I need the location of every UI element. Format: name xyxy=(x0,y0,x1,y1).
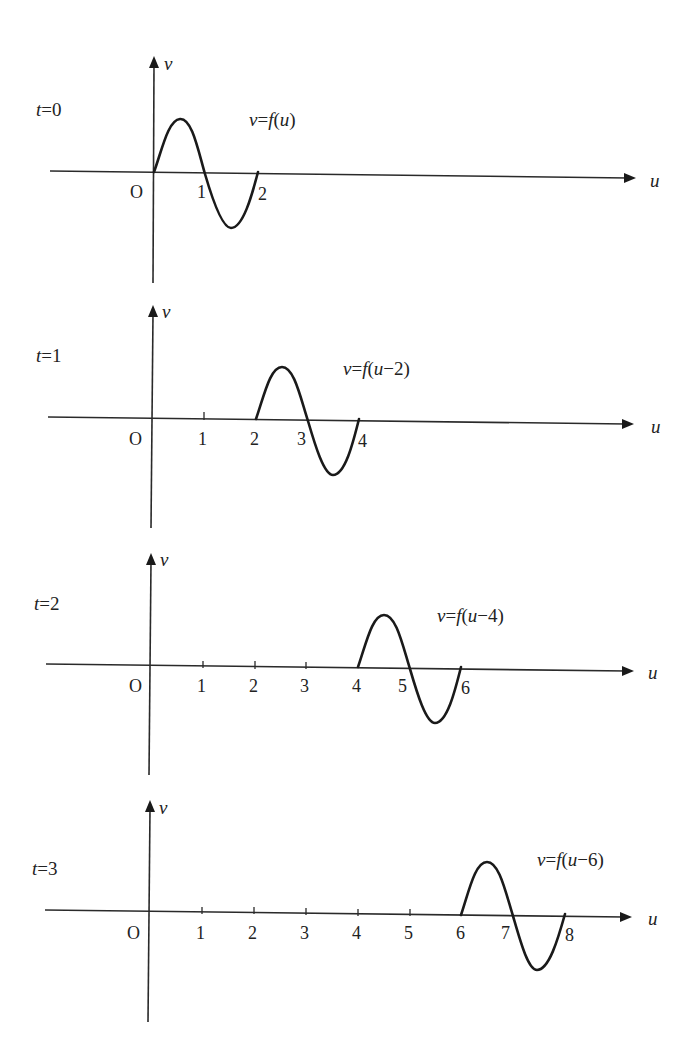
tick-label-2: 2 xyxy=(248,923,257,943)
wave-figure: v u O 1 2 t=0 v=f(u) v u O 1 2 3 4 t=1 v… xyxy=(0,0,694,1044)
panel-t2: v u O 1 2 3 4 5 6 t=2 v=f(u−4) xyxy=(34,549,658,775)
origin-label: O xyxy=(129,676,142,696)
tick-label-6: 6 xyxy=(461,678,470,698)
tick-label-4: 4 xyxy=(358,431,367,451)
u-axis-arrow-icon xyxy=(622,666,634,676)
u-axis-label: u xyxy=(648,662,658,683)
v-axis-arrow-icon xyxy=(146,553,156,565)
panel-t0: v u O 1 2 t=0 v=f(u) xyxy=(36,53,660,283)
tick-label-6: 6 xyxy=(456,923,465,943)
tick-label-7: 7 xyxy=(501,923,510,943)
v-axis xyxy=(149,562,151,775)
tick-label-1: 1 xyxy=(198,429,207,449)
u-axis-label: u xyxy=(648,908,658,929)
u-axis-label: u xyxy=(650,170,660,191)
origin-label: O xyxy=(130,182,143,202)
origin-label: O xyxy=(129,429,142,449)
v-axis xyxy=(153,64,154,283)
function-label: v=f(u−6) xyxy=(537,849,604,871)
v-axis-label: v xyxy=(164,53,173,74)
tick-label-2: 2 xyxy=(250,429,259,449)
u-axis-label: u xyxy=(651,416,661,437)
panel-t3: v u O 1 2 3 4 5 6 7 8 t=3 v=f(u−6) xyxy=(32,797,658,1022)
tick-label-5: 5 xyxy=(398,676,407,696)
v-axis-label: v xyxy=(159,797,168,818)
u-axis xyxy=(48,417,626,424)
tick-label-1: 1 xyxy=(197,676,206,696)
u-axis-arrow-icon xyxy=(620,912,632,922)
v-axis-arrow-icon xyxy=(148,305,158,317)
tick-label-5: 5 xyxy=(404,923,413,943)
v-axis xyxy=(151,314,153,528)
tick-label-4: 4 xyxy=(352,923,361,943)
time-label: t=0 xyxy=(36,99,62,120)
tick-label-3: 3 xyxy=(300,676,309,696)
time-label: t=2 xyxy=(34,593,60,614)
time-label: t=3 xyxy=(32,858,58,879)
function-label: v=f(u) xyxy=(249,109,296,131)
v-axis-arrow-icon xyxy=(145,800,155,812)
v-axis-label: v xyxy=(160,549,169,570)
tick-label-1: 1 xyxy=(196,923,205,943)
v-axis-label: v xyxy=(162,301,171,322)
u-axis-arrow-icon xyxy=(622,419,634,429)
v-axis xyxy=(148,809,150,1022)
time-label: t=1 xyxy=(36,345,62,366)
panel-t1: v u O 1 2 3 4 t=1 v=f(u−2) xyxy=(36,301,661,528)
tick-label-4: 4 xyxy=(352,676,361,696)
origin-label: O xyxy=(127,923,140,943)
u-axis xyxy=(45,910,624,917)
tick-label-1: 1 xyxy=(197,182,206,202)
function-label: v=f(u−4) xyxy=(437,605,504,627)
function-label: v=f(u−2) xyxy=(343,358,410,380)
u-axis xyxy=(50,171,628,178)
u-axis-arrow-icon xyxy=(624,173,636,183)
tick-label-3: 3 xyxy=(300,923,309,943)
tick-label-2: 2 xyxy=(258,184,267,204)
v-axis-arrow-icon xyxy=(149,56,159,68)
tick-label-2: 2 xyxy=(249,676,258,696)
tick-label-3: 3 xyxy=(297,429,306,449)
tick-label-8: 8 xyxy=(565,925,574,945)
u-axis xyxy=(46,664,626,671)
